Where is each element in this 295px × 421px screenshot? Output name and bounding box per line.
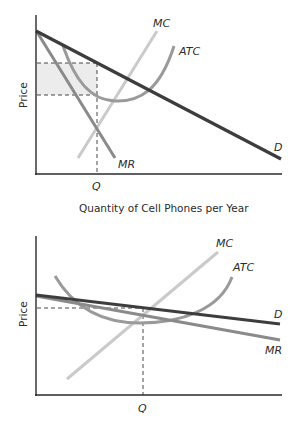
quantity-tick-label: Q <box>138 402 147 415</box>
atc-label: ATC <box>232 261 254 274</box>
mc-label: MC <box>216 237 233 250</box>
x-axis-title: Quantity of Cell Phones per Year <box>79 202 249 214</box>
quantity-tick-label: Q <box>92 180 101 193</box>
bottom-chart: MC ATC D MR Q Price <box>17 236 282 415</box>
y-axis-title: Price <box>17 301 29 327</box>
demand-curve <box>36 295 280 324</box>
mc-label: MC <box>153 17 170 30</box>
atc-label: ATC <box>178 45 200 58</box>
mr-label: MR <box>118 158 135 171</box>
y-axis-title: Price <box>17 82 29 108</box>
mr-label: MR <box>265 344 282 357</box>
top-chart: MC ATC MR D Q Quantity of Cell Phones pe… <box>17 15 282 214</box>
demand-label: D <box>274 308 282 321</box>
demand-label: D <box>274 141 282 154</box>
diagram-canvas: MC ATC MR D Q Quantity of Cell Phones pe… <box>0 0 295 421</box>
